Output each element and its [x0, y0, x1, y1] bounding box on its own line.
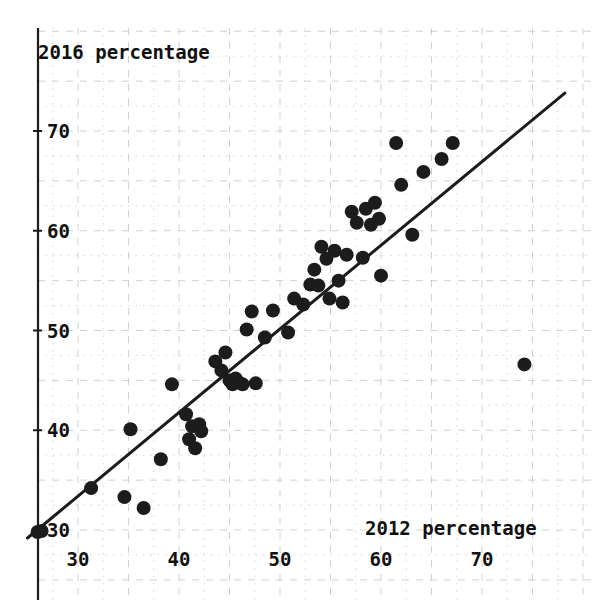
data-point [394, 178, 408, 192]
y-tick-label: 50 [47, 320, 70, 342]
data-point [307, 263, 321, 277]
data-point [416, 165, 430, 179]
data-point [389, 136, 403, 150]
data-point [84, 481, 98, 495]
data-point [332, 274, 346, 288]
data-point [165, 377, 179, 391]
x-tick-label: 50 [269, 548, 292, 570]
data-point [405, 228, 419, 242]
axis-ticks: 30405060703040506070 [33, 120, 493, 570]
y-tick-label: 60 [47, 220, 70, 242]
gridlines [38, 28, 593, 600]
y-tick-label: 30 [47, 519, 70, 541]
x-tick-label: 30 [67, 548, 90, 570]
data-point [236, 377, 250, 391]
data-point [266, 304, 280, 318]
data-point [179, 407, 193, 421]
data-point [372, 212, 386, 226]
data-point [117, 490, 131, 504]
data-point [35, 524, 49, 538]
data-point [328, 244, 342, 258]
data-point [154, 452, 168, 466]
x-tick-label: 70 [471, 548, 494, 570]
data-point [137, 501, 151, 515]
data-point [188, 441, 202, 455]
data-point [435, 152, 449, 166]
data-point [218, 345, 232, 359]
y-tick-label: 40 [47, 419, 70, 441]
data-point [311, 279, 325, 293]
data-point [314, 240, 328, 254]
data-point [245, 305, 259, 319]
data-point [124, 422, 138, 436]
data-point [336, 296, 350, 310]
x-axis-title: 2012 percentage [365, 517, 537, 539]
x-tick-label: 60 [370, 548, 393, 570]
data-point [517, 357, 531, 371]
data-point [368, 196, 382, 210]
y-tick-label: 70 [47, 120, 70, 142]
data-point [322, 292, 336, 306]
chart-canvas: 30405060703040506070 2016 percentage 201… [0, 0, 595, 608]
data-point [194, 424, 208, 438]
data-point [356, 251, 370, 265]
data-point [350, 216, 364, 230]
scatter-plot-figure: 30405060703040506070 2016 percentage 201… [0, 0, 595, 608]
x-tick-label: 40 [168, 548, 191, 570]
data-point [249, 376, 263, 390]
data-point [340, 248, 354, 262]
data-point [446, 136, 460, 150]
data-point [240, 323, 254, 337]
data-point [281, 325, 295, 339]
y-axis-title: 2016 percentage [38, 41, 210, 63]
data-point [258, 330, 272, 344]
regression-line [28, 93, 565, 538]
data-point [374, 269, 388, 283]
data-point [296, 298, 310, 312]
